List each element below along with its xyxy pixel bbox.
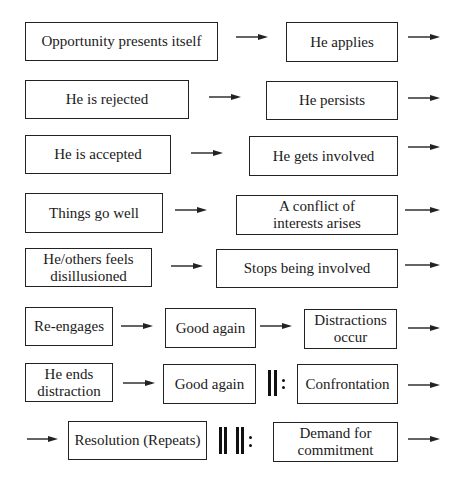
repeat-bar — [241, 427, 244, 454]
repeat-dot — [282, 379, 285, 382]
flow-node-n4: He persists — [266, 81, 398, 120]
repeat-dot — [282, 386, 285, 389]
arrow-right-icon — [260, 321, 292, 331]
flow-diagram: Opportunity presents itselfHe appliesHe … — [0, 0, 466, 486]
arrow-right-icon — [121, 321, 153, 331]
arrow-right-icon — [123, 378, 155, 388]
flow-node-n3: He is rejected — [25, 80, 189, 119]
arrow-right-icon — [27, 434, 58, 444]
arrow-right-icon — [408, 93, 440, 103]
flow-node-n18: Demand for commitment — [273, 422, 398, 462]
flow-node-n13: Distractions occur — [304, 309, 397, 349]
flow-node-n14: He ends distraction — [25, 363, 113, 402]
arrow-right-icon — [408, 32, 440, 42]
arrow-right-icon — [405, 205, 440, 215]
arrow-right-icon — [408, 380, 440, 390]
flow-node-n12: Good again — [165, 308, 256, 348]
flow-node-n10: Stops being involved — [216, 249, 398, 288]
flow-node-n1: Opportunity presents itself — [25, 22, 218, 61]
arrow-right-icon — [408, 434, 440, 444]
arrow-right-icon — [408, 142, 440, 152]
flow-node-n8: A conflict of interests arises — [236, 195, 398, 235]
repeat-dot — [249, 444, 252, 447]
flow-node-n11: Re-engages — [25, 307, 113, 346]
repeat-bar — [274, 370, 277, 396]
flow-node-n9: He/others feels disillusioned — [25, 248, 152, 287]
repeat-bar — [224, 427, 227, 454]
arrow-right-icon — [405, 260, 440, 270]
repeat-bar — [268, 370, 271, 396]
flow-node-n7: Things go well — [25, 193, 163, 233]
repeat-dot — [249, 436, 252, 439]
arrow-right-icon — [175, 205, 207, 215]
repeat-bar — [219, 427, 222, 454]
arrow-right-icon — [408, 323, 440, 333]
arrow-right-icon — [236, 32, 268, 42]
flow-node-n2: He applies — [286, 22, 398, 62]
flow-node-n16: Confrontation — [297, 364, 398, 404]
flow-node-n5: He is accepted — [25, 135, 171, 174]
arrow-right-icon — [171, 261, 203, 271]
repeat-bar — [236, 427, 239, 454]
flow-node-n15: Good again — [163, 364, 256, 404]
arrow-right-icon — [209, 92, 241, 102]
arrow-right-icon — [191, 148, 223, 158]
flow-node-n17: Resolution (Repeats) — [68, 421, 207, 460]
flow-node-n6: He gets involved — [249, 136, 398, 176]
